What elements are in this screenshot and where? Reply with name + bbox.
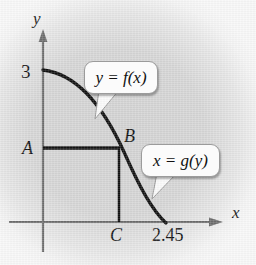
callout-inverse-label-text: x = g(y)	[153, 151, 208, 171]
point-label-a: A	[22, 139, 33, 157]
point-label-c: C	[110, 226, 122, 244]
graph-figure: y x 3 2.45 A B C y = f(x) x = g(y)	[0, 0, 256, 265]
y-axis	[39, 29, 48, 252]
callout-inverse-label: x = g(y)	[141, 144, 220, 177]
arrow-up-icon	[39, 29, 48, 42]
x-axis-label: x	[232, 204, 240, 221]
x-intercept-label: 2.45	[152, 226, 184, 244]
y-axis-label: y	[33, 10, 41, 27]
callout-curve-label: y = f(x)	[84, 61, 158, 94]
point-label-b: B	[124, 127, 135, 145]
callout-tail-curve-label	[95, 90, 119, 119]
callout-curve-label-text: y = f(x)	[95, 68, 146, 88]
arrow-right-icon	[209, 217, 223, 226]
y-intercept-label: 3	[21, 62, 31, 81]
